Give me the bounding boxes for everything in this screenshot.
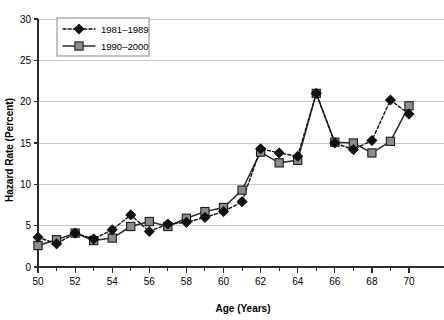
x-tick-label-60: 60 (218, 276, 230, 287)
x-tick-label-70: 70 (403, 276, 415, 287)
legend-label-1: 1981–1989 (101, 24, 149, 35)
hazard-rate-line-chart: 051015202530 5052545658606264666870 Haza… (0, 0, 444, 320)
legend: 1981–19891990–2000 (57, 18, 149, 56)
point-1990–2000-age-61 (238, 186, 246, 194)
y-tick-label-30: 30 (20, 14, 32, 25)
point-1990–2000-age-68 (368, 149, 376, 157)
x-tick-label-52: 52 (70, 276, 82, 287)
y-tick-label-15: 15 (20, 138, 32, 149)
point-1990–2000-age-56 (145, 217, 153, 225)
y-axis-title: Hazard Rate (Percent) (4, 98, 15, 202)
chart-container: 051015202530 5052545658606264666870 Haza… (0, 0, 444, 320)
x-tick-label-56: 56 (144, 276, 156, 287)
y-tick-label-0: 0 (25, 262, 31, 273)
x-tick-label-50: 50 (32, 276, 44, 287)
x-axis-title: Age (Years) (215, 303, 270, 314)
x-tick-label-66: 66 (329, 276, 341, 287)
legend-marker-square (75, 42, 83, 50)
point-1990–2000-age-55 (127, 222, 135, 230)
y-tick-label-25: 25 (20, 55, 32, 66)
x-tick-label-58: 58 (181, 276, 193, 287)
legend-label-2: 1990–2000 (101, 41, 149, 52)
point-1990–2000-age-69 (386, 137, 394, 145)
legend-entry-2: 1990–2000 (63, 41, 149, 52)
x-tick-label-54: 54 (107, 276, 119, 287)
x-tick-label-62: 62 (255, 276, 267, 287)
point-1990–2000-age-63 (275, 159, 283, 167)
y-tick-label-20: 20 (20, 96, 32, 107)
y-tick-label-10: 10 (20, 179, 32, 190)
x-tick-label-68: 68 (366, 276, 378, 287)
x-tick-label-64: 64 (292, 276, 304, 287)
y-tick-label-5: 5 (25, 220, 31, 231)
